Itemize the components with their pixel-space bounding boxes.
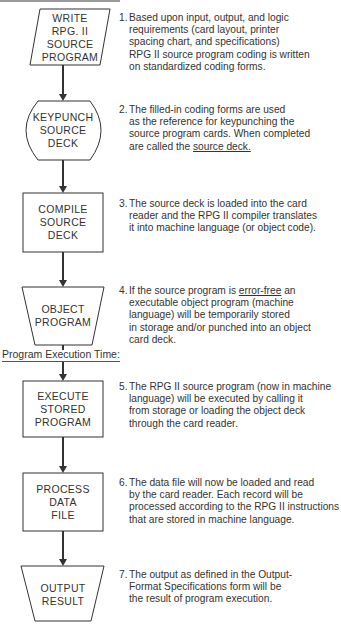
compile-label: COMPILE SOURCE DECK (23, 203, 103, 242)
step-line: from storage or loading the object deck (129, 405, 341, 417)
step-line: are called the source deck. (129, 141, 341, 153)
step-text: an (281, 285, 295, 296)
arrowhead-icon (59, 374, 67, 381)
arrowhead-icon (59, 186, 67, 193)
step-line: requirements (card layout, printer (129, 24, 341, 36)
step-line: the result of program execution. (129, 593, 341, 605)
step-line: by the card reader. Each record will be (129, 489, 341, 501)
label-line: DATA (23, 496, 103, 509)
label-line: OUTPUT (23, 582, 103, 595)
step-line: through the card reader. (129, 418, 341, 430)
program-execution-time-label: Program Execution Time: (2, 348, 120, 362)
arrowhead-icon (59, 559, 67, 566)
label-line: EXECUTE (23, 390, 103, 403)
step-line: The output as defined in the Output- (129, 569, 341, 581)
label-line: SOURCE (23, 216, 103, 229)
step-number: 3. (119, 198, 128, 210)
step-number: 5. (119, 381, 128, 393)
label-line: RESULT (23, 595, 103, 608)
label-line: DECK (23, 229, 103, 242)
step-line: reader and the RPG II compiler translate… (129, 210, 341, 222)
step-number: 6. (119, 477, 128, 489)
step-7: 7. The output as defined in the Output- … (119, 569, 341, 606)
step-5: 5. The RPG II source program (now in mac… (119, 381, 341, 430)
keypunch-label: KEYPUNCH SOURCE DECK (23, 111, 103, 150)
step-line: If the source program is error-free an (129, 285, 341, 297)
step-text: If the source program is (129, 285, 239, 296)
source-deck-term: source deck. (193, 141, 251, 152)
step-2: 2. The filled-in coding forms are used a… (119, 104, 341, 153)
step-line: Based upon input, output, and logic (129, 12, 341, 24)
step-number: 1. (119, 12, 128, 24)
label-line: COMPILE (23, 203, 103, 216)
arrowhead-icon (59, 94, 67, 101)
arrowhead-icon (59, 280, 67, 287)
execute-label: EXECUTE STORED PROGRAM (23, 390, 103, 429)
step-line: RPG II source program coding is written (129, 49, 341, 61)
step-number: 4. (119, 285, 128, 297)
object-label: OBJECT PROGRAM (23, 303, 103, 329)
step-line: language) will be executed by calling it (129, 393, 341, 405)
step-number: 7. (119, 569, 128, 581)
label-line: SOURCE (23, 124, 103, 137)
step-line: The filled-in coding forms are used (129, 104, 341, 116)
label-line: PROGRAM (35, 51, 105, 64)
step-line: that are stored in machine language. (129, 514, 341, 526)
label-line: RPG. II (35, 25, 105, 38)
label-line: DECK (23, 137, 103, 150)
step-line: source program cards. When completed (129, 128, 341, 140)
step-line: it into machine language (or object code… (129, 222, 341, 234)
label-line: WRITE (35, 12, 105, 25)
step-line: The RPG II source program (now in machin… (129, 381, 341, 393)
step-6: 6. The data file will now be loaded and … (119, 477, 341, 526)
step-number: 2. (119, 104, 128, 116)
label-line: PROGRAM (23, 316, 103, 329)
label-line: OBJECT (23, 303, 103, 316)
step-1: 1. Based upon input, output, and logic r… (119, 12, 341, 73)
label-line: STORED (23, 403, 103, 416)
step-3: 3. The source deck is loaded into the ca… (119, 198, 341, 235)
step-line: The data file will now be loaded and rea… (129, 477, 341, 489)
step-line: as the reference for keypunching the (129, 116, 341, 128)
error-free-term: error-free (239, 285, 281, 296)
step-line: in storage and/or punched into an object (129, 322, 341, 334)
step-line: card deck. (129, 334, 341, 346)
step-line: The source deck is loaded into the card (129, 198, 341, 210)
step-line: language) will be temporarily stored (129, 309, 341, 321)
process-label: PROCESS DATA FILE (23, 483, 103, 522)
label-line: PROCESS (23, 483, 103, 496)
label-line: FILE (23, 509, 103, 522)
step-line: on standardized coding forms. (129, 61, 341, 73)
step-line: processed according to the RPG II instru… (129, 501, 341, 513)
step-text: are called the (129, 141, 193, 152)
output-label: OUTPUT RESULT (23, 582, 103, 608)
step-line: executable object program (machine (129, 297, 341, 309)
label-line: SOURCE (35, 38, 105, 51)
label-line: KEYPUNCH (23, 111, 103, 124)
arrowhead-icon (59, 466, 67, 473)
step-line: Format Specifications form will be (129, 581, 341, 593)
write-label: WRITE RPG. II SOURCE PROGRAM (35, 12, 105, 64)
step-line: spacing chart, and specifications) (129, 36, 341, 48)
label-line: PROGRAM (23, 416, 103, 429)
step-4: 4. If the source program is error-free a… (119, 285, 341, 346)
